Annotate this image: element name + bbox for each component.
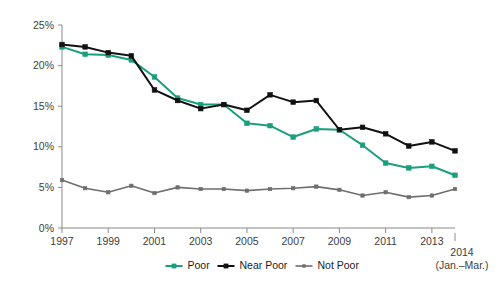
legend-label: Not Poor xyxy=(318,259,360,271)
data-point-marker xyxy=(222,102,227,107)
data-point-marker xyxy=(268,123,273,128)
x-axis-tick-label: 2005 xyxy=(235,235,259,247)
data-point-marker xyxy=(291,187,294,190)
legend-swatch-marker xyxy=(302,264,305,267)
data-point-marker xyxy=(453,173,458,178)
data-point-marker xyxy=(407,195,410,198)
legend-swatch-marker xyxy=(224,264,229,269)
data-point-marker xyxy=(245,108,250,113)
data-point-marker xyxy=(406,144,411,149)
final-year-label-line1: 2014 xyxy=(450,246,474,258)
y-axis-tick-label: 15% xyxy=(33,100,54,112)
legend-swatch-marker xyxy=(172,264,177,269)
legend-label: Near Poor xyxy=(240,259,288,271)
data-point-marker xyxy=(199,187,202,190)
data-point-marker xyxy=(83,45,88,50)
x-axis-tick-label: 2013 xyxy=(420,235,444,247)
data-point-marker xyxy=(291,100,296,105)
data-point-marker xyxy=(83,52,88,57)
chart-legend: PoorNear PoorNot Poor xyxy=(166,259,360,271)
data-point-marker xyxy=(129,54,134,59)
data-point-marker xyxy=(83,187,86,190)
y-axis-tick-label: 25% xyxy=(33,19,54,31)
data-point-marker xyxy=(198,106,203,111)
data-point-marker xyxy=(453,187,456,190)
data-point-marker xyxy=(153,191,156,194)
data-point-marker xyxy=(430,164,435,169)
data-point-marker xyxy=(245,121,250,126)
data-point-marker xyxy=(222,187,225,190)
data-point-marker xyxy=(60,42,65,47)
data-point-marker xyxy=(384,191,387,194)
data-point-marker xyxy=(430,194,433,197)
chart-container: 0%5%10%15%20%25% 19971999200120032005200… xyxy=(0,0,496,289)
data-point-marker xyxy=(430,140,435,145)
y-axis-tick-label: 20% xyxy=(33,59,54,71)
x-axis-tick-label: 2009 xyxy=(328,235,352,247)
data-point-marker xyxy=(152,75,157,80)
data-point-marker xyxy=(360,143,365,148)
data-point-marker xyxy=(176,186,179,189)
data-point-marker xyxy=(383,161,388,166)
data-point-marker xyxy=(245,189,248,192)
x-axis-tick-label: 2011 xyxy=(374,235,397,247)
data-point-marker xyxy=(314,127,319,132)
final-year-label-line2: (Jan.–Mar.) xyxy=(435,259,488,271)
data-point-marker xyxy=(383,132,388,137)
x-axis-tick-label: 1999 xyxy=(97,235,121,247)
x-axis-tick-label: 2003 xyxy=(189,235,213,247)
data-point-marker xyxy=(60,178,63,181)
data-point-marker xyxy=(268,93,273,98)
data-point-marker xyxy=(360,125,365,130)
y-axis-tick-label: 10% xyxy=(33,140,54,152)
line-chart: 0%5%10%15%20%25% 19971999200120032005200… xyxy=(0,0,496,289)
x-axis-tick-label: 1997 xyxy=(50,235,74,247)
data-point-marker xyxy=(314,98,319,103)
x-axis-tick-label: 2007 xyxy=(281,235,305,247)
data-point-marker xyxy=(291,135,296,140)
data-point-marker xyxy=(406,166,411,171)
data-point-marker xyxy=(338,188,341,191)
data-point-marker xyxy=(315,185,318,188)
data-point-marker xyxy=(107,191,110,194)
data-point-marker xyxy=(453,149,458,154)
data-point-marker xyxy=(337,127,342,132)
legend-label: Poor xyxy=(188,259,211,271)
x-axis-tick-label: 2001 xyxy=(143,235,167,247)
data-point-marker xyxy=(361,194,364,197)
y-axis-tick-label: 0% xyxy=(39,222,54,234)
y-axis-tick-label: 5% xyxy=(39,181,54,193)
data-point-marker xyxy=(268,187,271,190)
data-point-marker xyxy=(175,98,180,103)
data-point-marker xyxy=(106,50,111,55)
data-point-marker xyxy=(130,184,133,187)
data-point-marker xyxy=(152,88,157,93)
